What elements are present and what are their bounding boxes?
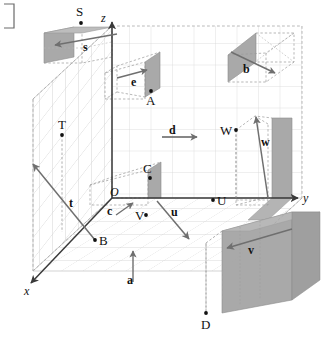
axis-label-y: y [303, 192, 308, 204]
point-dot-S [79, 21, 83, 25]
origin-label: O [110, 186, 119, 198]
corner-bracket-mark [4, 4, 14, 28]
vector-label-c: c [107, 205, 112, 217]
vector-label-a: a [127, 274, 133, 286]
point-label-C: C [143, 162, 152, 175]
vector-label-u: u [171, 206, 178, 218]
point-dot-W [234, 128, 238, 132]
vector-label-v: v [248, 244, 254, 256]
point-dot-T [60, 133, 64, 137]
point-label-V: V [135, 209, 144, 222]
vector-label-d: d [169, 124, 176, 136]
point-dot-D [204, 311, 208, 315]
vector-label-t: t [69, 197, 73, 209]
point-label-S: S [76, 5, 83, 18]
axis-label-x: x [24, 285, 29, 297]
diagram-canvas [0, 0, 321, 337]
point-label-B: B [99, 234, 108, 247]
vector-label-e: e [131, 76, 136, 88]
point-dot-B [93, 238, 97, 242]
point-label-W: W [220, 124, 232, 137]
vector-diagram-figure: x y z O S A T C B V U W D s b e d w t c … [0, 0, 321, 337]
point-label-A: A [146, 94, 155, 107]
point-dot-V [144, 213, 148, 217]
vector-label-b: b [243, 63, 250, 75]
point-dot-U [211, 198, 215, 202]
vector-label-s: s [83, 41, 88, 53]
point-label-D: D [201, 318, 210, 331]
axis-label-z: z [101, 12, 106, 24]
point-dot-C [148, 176, 152, 180]
point-label-T: T [58, 118, 66, 131]
point-label-U: U [217, 194, 226, 207]
vector-label-w: w [261, 136, 270, 148]
